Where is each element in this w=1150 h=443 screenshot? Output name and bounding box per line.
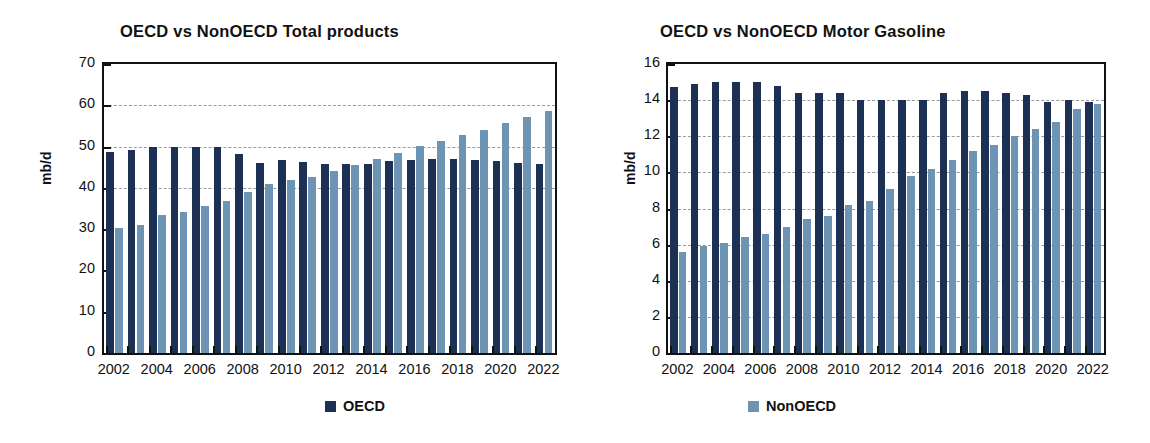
bar-nonoecd	[502, 123, 510, 353]
bar-group	[834, 64, 855, 353]
x-axis-ticklabel: 2016	[952, 361, 984, 377]
bar-nonoecd	[158, 215, 166, 353]
bar-group	[512, 64, 533, 353]
x-axis-tick	[1064, 346, 1066, 353]
y-axis-ticklabel: 14	[644, 90, 660, 106]
x-axis-ticklabel: 2020	[484, 361, 516, 377]
y-axis-ticklabel: 30	[79, 219, 95, 235]
x-axis-tick	[449, 346, 451, 353]
x-axis-tick	[492, 346, 494, 353]
x-axis-tick	[836, 346, 838, 353]
bar-oecd	[1085, 102, 1092, 353]
x-axis-ticklabel: 2006	[184, 361, 216, 377]
bar-nonoecd	[137, 225, 145, 353]
y-axis-ticklabel: 60	[79, 95, 95, 111]
bar-oecd	[471, 160, 479, 353]
bar-oecd	[732, 82, 739, 353]
bar-oecd	[192, 147, 200, 353]
x-axis-ticklabel: 2010	[827, 361, 859, 377]
bar-oecd	[691, 84, 698, 353]
bar-oecd	[128, 150, 136, 353]
x-axis-tick	[213, 346, 215, 353]
bar-oecd	[961, 91, 968, 353]
bar-nonoecd	[783, 227, 790, 353]
x-axis-tick	[1043, 346, 1045, 353]
y-axis-ticklabel: 0	[652, 343, 660, 359]
x-axis-tick	[106, 346, 108, 353]
x-axis-tick	[960, 346, 962, 353]
bar-group	[793, 64, 814, 353]
x-axis-tick	[256, 346, 258, 353]
bar-group	[405, 64, 426, 353]
bar-group	[340, 64, 361, 353]
bar-nonoecd	[824, 216, 831, 353]
bar-oecd	[670, 87, 677, 353]
y-axis-ticklabel: 12	[644, 126, 660, 142]
bar-oecd	[712, 82, 719, 353]
x-axis-ticklabel: 2018	[441, 361, 473, 377]
y-axis-ticklabel: 40	[79, 178, 95, 194]
bar-group	[362, 64, 383, 353]
bar-oecd	[1044, 102, 1051, 353]
bar-nonoecd	[265, 184, 273, 353]
x-axis-tick	[877, 346, 879, 353]
bar-nonoecd	[223, 201, 231, 353]
bar-oecd	[795, 93, 802, 353]
bar-nonoecd	[459, 135, 467, 353]
x-axis-ticklabel: 2002	[661, 361, 693, 377]
bar-nonoecd	[394, 153, 402, 353]
bar-oecd	[815, 93, 822, 353]
x-axis-tick	[299, 346, 301, 353]
bar-group	[855, 64, 876, 353]
x-axis-tick	[363, 346, 365, 353]
bar-group	[710, 64, 731, 353]
x-axis-tick	[278, 346, 280, 353]
y-axis-label-motor-gasoline: mb/d	[622, 152, 638, 185]
x-axis-tick	[127, 346, 129, 353]
y-axis-ticklabel: 2	[652, 307, 660, 323]
bar-oecd	[857, 100, 864, 353]
bar-group	[979, 64, 1000, 353]
x-axis-ticklabel: 2012	[869, 361, 901, 377]
bar-nonoecd	[201, 206, 209, 353]
bar-oecd	[1023, 95, 1030, 353]
bar-group	[491, 64, 512, 353]
bar-nonoecd	[1032, 129, 1039, 353]
bar-nonoecd	[907, 176, 914, 353]
bar-group	[448, 64, 469, 353]
bar-nonoecd	[679, 252, 686, 353]
bar-group	[383, 64, 404, 353]
x-axis-tick	[857, 346, 859, 353]
plot-area-motor-gasoline	[666, 62, 1106, 355]
y-axis-ticklabel: 16	[644, 54, 660, 70]
x-axis-tick	[1085, 346, 1087, 353]
y-axis-label-total-products: mb/d	[38, 152, 54, 185]
bar-group	[534, 64, 555, 353]
bar-nonoecd	[180, 212, 188, 353]
bar-oecd	[364, 164, 372, 353]
bar-nonoecd	[308, 177, 316, 353]
x-axis-ticklabel: 2010	[269, 361, 301, 377]
bar-oecd	[407, 160, 415, 353]
bar-group	[689, 64, 710, 353]
x-axis-tick	[406, 346, 408, 353]
bar-group	[426, 64, 447, 353]
bar-oecd	[919, 100, 926, 353]
bar-oecd	[536, 164, 544, 353]
bar-nonoecd	[700, 246, 707, 353]
bar-group	[104, 64, 125, 353]
bar-nonoecd	[928, 169, 935, 353]
bar-oecd	[106, 152, 114, 353]
x-axis-tick	[342, 346, 344, 353]
bar-group	[772, 64, 793, 353]
x-axis-tick	[981, 346, 983, 353]
bar-nonoecd	[330, 171, 338, 353]
x-axis-ticklabel: 2012	[312, 361, 344, 377]
bar-group	[168, 64, 189, 353]
y-axis-ticklabel: 10	[79, 302, 95, 318]
bar-nonoecd	[437, 141, 445, 353]
bar-group	[730, 64, 751, 353]
y-axis-ticklabel: 0	[87, 343, 95, 359]
bar-nonoecd	[866, 201, 873, 353]
bar-group	[1083, 64, 1104, 353]
